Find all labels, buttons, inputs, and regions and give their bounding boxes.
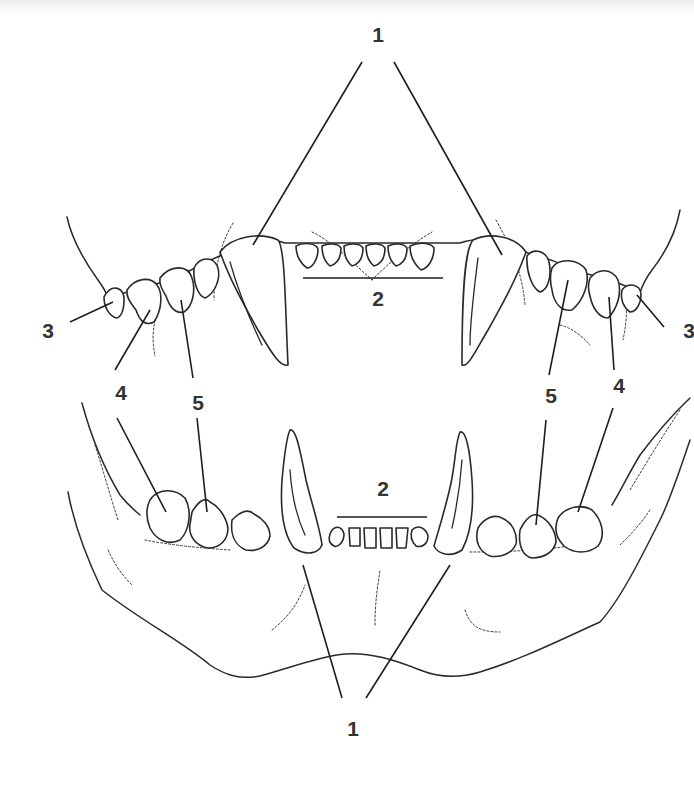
upper-right-premolar bbox=[551, 261, 588, 311]
label-upper-left-premolar: 5 bbox=[192, 391, 204, 414]
label-upper-right-molar: 3 bbox=[683, 319, 694, 342]
leader-lines bbox=[70, 62, 664, 698]
mandible-outline bbox=[68, 440, 690, 677]
lower-left-premolar bbox=[190, 500, 228, 548]
lower-left-carnassial bbox=[147, 491, 189, 543]
lower-right-carnassial bbox=[556, 507, 602, 552]
label-upper-left-carnassial: 4 bbox=[115, 381, 127, 404]
label-upper-canines: 1 bbox=[372, 23, 384, 46]
label-upper-right-premolar: 5 bbox=[545, 384, 557, 407]
lower-right-canine bbox=[434, 432, 473, 554]
lower-jaw bbox=[68, 398, 690, 677]
upper-right-carnassial bbox=[589, 271, 620, 318]
lower-right-premolar-2 bbox=[477, 516, 517, 556]
label-upper-right-carnassial: 4 bbox=[613, 374, 625, 397]
upper-left-molar bbox=[104, 288, 124, 318]
upper-left-premolar-small bbox=[194, 259, 219, 298]
label-upper-incisors: 2 bbox=[372, 287, 384, 310]
upper-right-premolar-small bbox=[527, 251, 550, 292]
upper-incisors bbox=[296, 243, 434, 270]
upper-right-canine bbox=[462, 236, 526, 365]
teeth-diagram: 1 2 3 3 4 4 5 5 2 1 bbox=[0, 0, 694, 805]
lower-left-premolar-2 bbox=[232, 511, 270, 550]
upper-skull-outline-left bbox=[67, 217, 108, 298]
upper-left-carnassial bbox=[127, 279, 161, 323]
upper-left-canine bbox=[220, 236, 288, 365]
upper-skull-outline-right bbox=[640, 210, 680, 293]
upper-right-molar bbox=[621, 285, 641, 312]
lower-right-premolar bbox=[520, 515, 557, 558]
label-lower-canines: 1 bbox=[347, 717, 359, 740]
labels: 1 2 3 3 4 4 5 5 2 1 bbox=[42, 23, 694, 740]
lower-left-canine bbox=[282, 430, 323, 553]
lower-incisors bbox=[329, 527, 428, 548]
upper-left-premolar bbox=[160, 268, 194, 313]
label-upper-left-molar: 3 bbox=[42, 319, 54, 342]
mandible-ramus-right bbox=[612, 398, 690, 505]
label-lower-incisors: 2 bbox=[377, 477, 389, 500]
